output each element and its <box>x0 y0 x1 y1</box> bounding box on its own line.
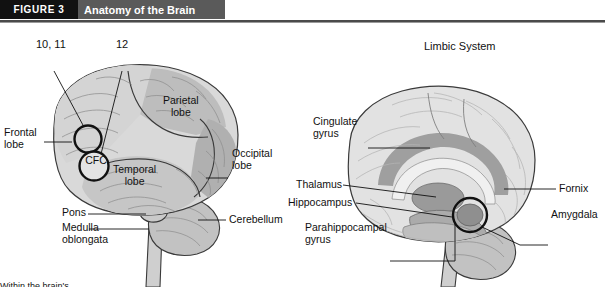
cfc-text-svg: CFC <box>76 151 116 169</box>
page-title: Anatomy of the Brain <box>84 0 195 19</box>
label-parietal-lobe: Parietal lobe <box>163 95 199 118</box>
label-hippocampus: Hippocampus <box>288 197 352 209</box>
callout-cfc-text: CFC <box>85 154 107 166</box>
figure-canvas: 10, 11 12 CFC Frontal lobe Parietal lobe… <box>0 23 605 287</box>
callout-10-11: 10, 11 <box>36 39 66 51</box>
label-thalamus: Thalamus <box>296 179 342 191</box>
label-occipital-lobe: Occipital lobe <box>232 148 272 171</box>
callout-12: 12 <box>116 39 128 51</box>
label-frontal-lobe: Frontal lobe <box>4 127 37 150</box>
label-cerebellum: Cerebellum <box>229 214 283 226</box>
thalamus-shape <box>412 183 464 213</box>
label-fornix: Fornix <box>559 183 588 195</box>
label-temporal-lobe: Temporal lobe <box>113 164 156 187</box>
limbic-system-title: Limbic System <box>424 40 496 52</box>
label-pons: Pons <box>62 207 86 219</box>
label-amygdala: Amygdala <box>551 209 598 221</box>
figure-caption: Within the brain's... <box>0 281 605 287</box>
label-parahippocampal-gyrus: Parahippocampal gyrus <box>305 222 387 245</box>
figure-tag-label: FIGURE 3 <box>0 0 78 19</box>
label-cingulate-gyrus: Cingulate gyrus <box>313 116 357 139</box>
amygdala-shape <box>457 204 483 226</box>
figure-header: FIGURE 3 Anatomy of the Brain <box>0 0 225 19</box>
label-medulla-oblongata: Medulla oblongata <box>62 222 108 245</box>
right-brain-group <box>343 86 556 287</box>
